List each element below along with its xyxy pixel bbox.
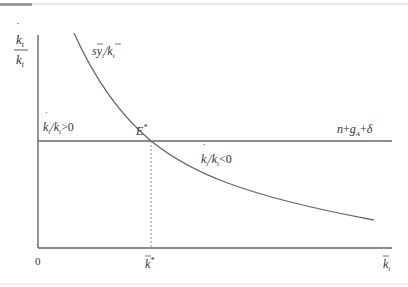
y-axis-label: ˙ kt kt [14, 20, 28, 69]
svg-text:˙: ˙ [44, 110, 47, 121]
origin-label: 0 [35, 255, 41, 267]
svg-text:kt: kt [16, 32, 25, 49]
x-axis-label: kt [383, 257, 391, 273]
region-above-label: kt/kt>0 [43, 120, 74, 136]
steady-state-k-label: k* [145, 256, 154, 271]
solow-diagram: ˙ kt kt syt/kt kt/kt>0 ˙ E* n+gA+δ kt/kt… [0, 0, 408, 287]
savings-curve-label: syt/kt [92, 44, 116, 60]
svg-text:˙: ˙ [202, 142, 205, 153]
savings-curve [74, 33, 374, 220]
svg-text:kt: kt [16, 52, 25, 69]
region-below-label: kt/kt<0 [201, 152, 232, 168]
break-even-line-label: n+gA+δ [337, 122, 373, 138]
